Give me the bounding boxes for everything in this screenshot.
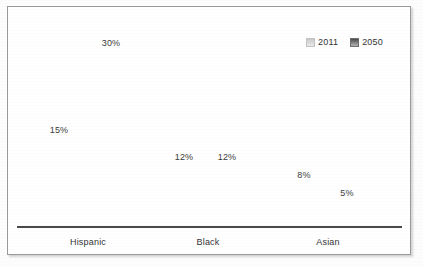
legend-item-2050[interactable]: 2050 <box>350 37 383 47</box>
plot-area: 2011 2050 15% 30% Hispanic 12% 12% Black… <box>8 7 410 254</box>
legend-swatch-2011-icon <box>306 38 315 47</box>
bar-value-hispanic-2050: 30% <box>93 38 129 48</box>
chart-figure: 2011 2050 15% 30% Hispanic 12% 12% Black… <box>0 0 423 267</box>
chart-frame: 2011 2050 15% 30% Hispanic 12% 12% Black… <box>7 6 411 255</box>
bar-hispanic-2011[interactable] <box>46 137 77 224</box>
bar-asian-2011[interactable] <box>291 176 322 224</box>
legend-swatch-2050-icon <box>350 38 359 47</box>
bar-value-hispanic-2011: 15% <box>41 125 77 135</box>
bar-asian-2050[interactable] <box>334 194 365 224</box>
legend-item-2011[interactable]: 2011 <box>306 37 338 47</box>
category-label-hispanic: Hispanic <box>48 237 128 247</box>
bar-black-2011[interactable] <box>171 154 202 224</box>
category-axis-line <box>17 226 402 228</box>
category-label-asian: Asian <box>288 237 368 247</box>
category-label-black: Black <box>168 237 248 247</box>
legend-label-2011: 2011 <box>318 37 338 47</box>
legend-label-2050: 2050 <box>362 37 383 47</box>
chart-legend: 2011 2050 <box>306 37 383 47</box>
bar-black-2050[interactable] <box>214 154 245 224</box>
bar-hispanic-2050[interactable] <box>98 50 129 224</box>
